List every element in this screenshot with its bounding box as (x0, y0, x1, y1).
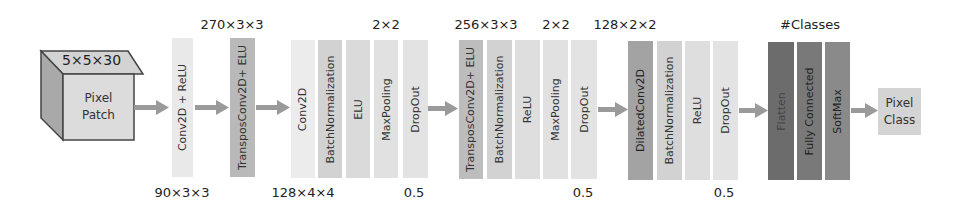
arrow-icon (598, 102, 628, 117)
dim-label-top: 2×2 (542, 17, 569, 32)
layer-label: Conv2D + ReLU (176, 64, 189, 151)
cnn-architecture-diagram: 5×5×30 Pixel Patch Conv2D + ReLU Transpo… (0, 0, 956, 216)
layer-label: TransposConv2D+ ELU (236, 45, 249, 170)
layer-transposconv2d-elu: TransposConv2D+ ELU (230, 38, 255, 177)
dim-label-bottom: 128×4×4 (271, 185, 334, 200)
layer-conv2d: Conv2D (291, 40, 315, 178)
layer-label: DilatedConv2D (634, 69, 647, 152)
layer-label: SoftMax (831, 89, 844, 133)
layer-dropout: DropOut (571, 40, 597, 179)
input-label: Pixel Patch (63, 90, 134, 124)
layer-label: TransposConv2D+ ELU (465, 47, 478, 172)
layer-label: Conv2D (297, 87, 310, 130)
arrow-icon (428, 101, 458, 116)
output-label-line1: Pixel (886, 95, 914, 112)
layer-dilatedconv2d: DilatedConv2D (628, 41, 653, 180)
dim-label-bottom: 0.5 (404, 185, 425, 200)
layer-label: DropOut (719, 87, 732, 133)
layer-label: MaxPooling (549, 78, 562, 141)
dim-label-top: 256×3×3 (454, 17, 517, 32)
layer-label: ReLU (521, 96, 534, 124)
layer-label: Fully Connected (803, 67, 816, 155)
layer-maxpooling: MaxPooling (543, 40, 568, 179)
arrow-icon (195, 100, 229, 115)
arrow-icon (851, 103, 878, 118)
arrow-icon (134, 100, 169, 115)
layer-label: MaxPooling (380, 78, 393, 141)
layer-fully-connected: Fully Connected (797, 42, 822, 180)
layer-label: BatchNormalization (324, 55, 337, 163)
layer-label: DropOut (409, 86, 422, 132)
layer-transposconv2d-elu: TransposConv2D+ ELU (459, 40, 483, 179)
layer-label: BatchNormalization (493, 55, 506, 163)
dim-label-top: 128×2×2 (593, 17, 656, 32)
layer-conv2d-relu: Conv2D + ReLU (172, 38, 193, 177)
layer-relu: ReLU (515, 40, 540, 179)
arrow-icon (256, 100, 290, 115)
layer-batchnorm: BatchNormalization (487, 40, 512, 179)
layer-label: Flatten (775, 92, 788, 131)
dim-label-top: 2×2 (372, 17, 399, 32)
layer-elu: ELU (346, 40, 370, 178)
dim-label-top: #Classes (780, 17, 840, 32)
layer-label: ReLU (691, 97, 704, 125)
layer-softmax: SoftMax (825, 42, 850, 180)
dim-label-top: 270×3×3 (200, 17, 263, 32)
layer-dropout: DropOut (713, 41, 738, 180)
layer-flatten: Flatten (768, 42, 794, 180)
layer-label: DropOut (578, 86, 591, 132)
dim-label-bottom: 0.5 (573, 185, 594, 200)
output-pixel-class: Pixel Class (878, 88, 921, 135)
layer-batchnorm: BatchNormalization (657, 41, 682, 180)
input-label-line2: Patch (63, 107, 134, 124)
layer-maxpooling: MaxPooling (374, 40, 398, 178)
input-shape-label: 5×5×30 (62, 52, 121, 68)
dim-label-bottom: 90×3×3 (155, 185, 210, 200)
layer-batchnorm: BatchNormalization (318, 40, 342, 178)
layer-dropout: DropOut (403, 40, 428, 178)
dim-label-bottom: 0.5 (714, 185, 735, 200)
layer-relu: ReLU (685, 41, 710, 180)
layer-label: ELU (352, 99, 365, 120)
arrow-icon (739, 103, 768, 118)
layer-label: BatchNormalization (663, 56, 676, 164)
output-label-line2: Class (884, 112, 916, 129)
input-label-line1: Pixel (63, 90, 134, 107)
